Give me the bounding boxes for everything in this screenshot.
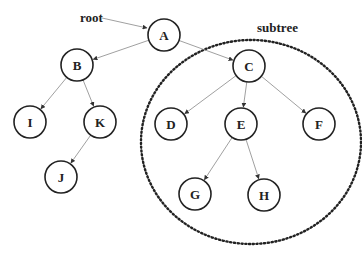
edge-E-H (246, 139, 259, 179)
root-pointer-arrow (102, 18, 147, 28)
edge-B-I (41, 77, 67, 109)
node-H: H (248, 179, 280, 211)
svg-text:B: B (73, 58, 82, 73)
node-D: D (155, 108, 187, 140)
edge-E-G (204, 137, 232, 179)
edge-B-K (83, 80, 94, 106)
node-G: G (179, 178, 211, 210)
subtree-label: subtree (257, 20, 298, 35)
edge-C-E (243, 82, 246, 107)
edge-C-D (185, 76, 237, 114)
root-label: root (80, 10, 104, 25)
svg-text:K: K (95, 115, 106, 130)
node-A: A (148, 19, 180, 51)
nodes: ABIKJCDEFGH (14, 19, 335, 211)
svg-text:G: G (190, 187, 200, 202)
svg-text:J: J (58, 170, 65, 185)
node-I: I (14, 106, 46, 138)
edge-K-J (71, 135, 91, 163)
tree-diagram: root subtree ABIKJCDEFGH (0, 0, 362, 257)
node-J: J (45, 161, 77, 193)
node-B: B (61, 49, 93, 81)
node-K: K (84, 106, 116, 138)
svg-text:C: C (244, 59, 253, 74)
edge-C-F (261, 76, 306, 113)
edge-A-B (93, 40, 149, 59)
svg-text:I: I (27, 115, 32, 130)
svg-text:F: F (315, 117, 323, 132)
node-F: F (303, 108, 335, 140)
svg-text:E: E (237, 117, 246, 132)
node-C: C (233, 50, 265, 82)
svg-text:H: H (259, 188, 269, 203)
svg-text:A: A (159, 28, 169, 43)
node-E: E (225, 108, 257, 140)
svg-text:D: D (166, 117, 175, 132)
